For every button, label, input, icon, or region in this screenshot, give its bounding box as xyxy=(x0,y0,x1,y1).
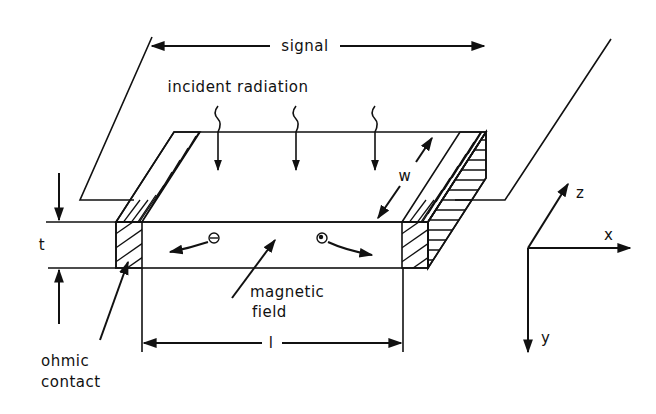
radiation-arrow-1 xyxy=(215,106,220,170)
thickness-label: t xyxy=(39,236,45,254)
magnetic-field: magnetic field xyxy=(232,240,324,321)
magnetic-field-label-2: field xyxy=(252,303,287,321)
width-dimension: w xyxy=(378,138,432,218)
hole-drift-arrow xyxy=(328,242,372,255)
incident-radiation-label: incident radiation xyxy=(168,78,309,96)
x-axis-label: x xyxy=(604,226,613,244)
electron-drift-arrow xyxy=(170,242,208,252)
y-axis-label: y xyxy=(541,329,550,347)
semiconductor-slab xyxy=(116,132,486,268)
length-label: l xyxy=(269,334,274,352)
hall-effect-diagram: signal incident radiation xyxy=(0,0,656,414)
width-label: w xyxy=(399,167,412,185)
incident-radiation: incident radiation xyxy=(168,78,378,170)
ohmic-contact-callout: ohmic contact xyxy=(41,262,128,391)
signal-leads: signal xyxy=(80,37,611,200)
z-axis-label: z xyxy=(576,184,584,202)
thickness-dimension: t xyxy=(39,173,116,324)
magnetic-field-label-1: magnetic xyxy=(250,283,324,301)
signal-label: signal xyxy=(281,37,328,55)
radiation-arrow-2 xyxy=(293,106,298,170)
right-signal-lead xyxy=(455,39,611,200)
z-axis xyxy=(528,184,568,248)
ohmic-contact-label-2: contact xyxy=(41,373,101,391)
coordinate-axes: z x y xyxy=(528,184,630,352)
ohmic-contact-label-1: ohmic xyxy=(41,352,89,370)
radiation-arrow-3 xyxy=(372,106,377,170)
left-signal-lead xyxy=(80,37,152,200)
